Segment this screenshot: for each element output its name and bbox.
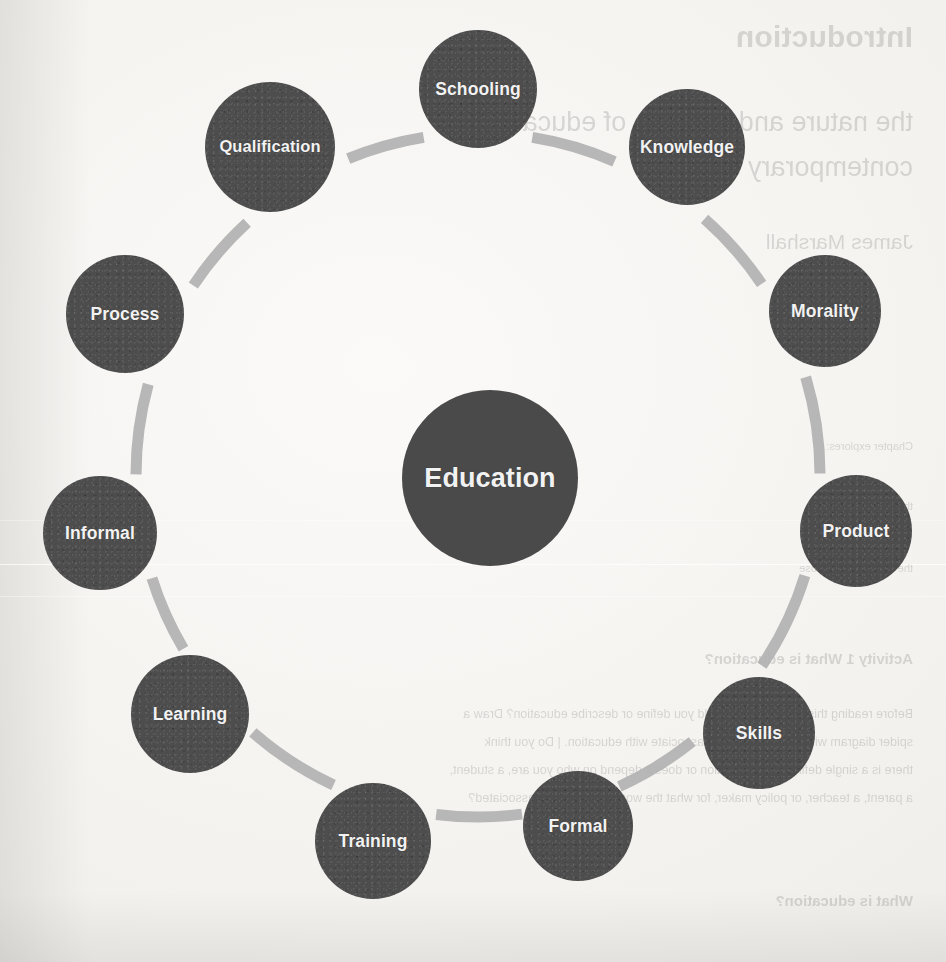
node-label: Education — [424, 464, 555, 492]
concept-node-training: Training — [315, 783, 431, 899]
education-concept-map: SchoolingKnowledgeMoralityProductSkillsF… — [0, 0, 946, 962]
ring-arc-segment — [253, 732, 334, 785]
node-label: Morality — [791, 302, 859, 320]
ring-arc-segment — [193, 223, 247, 286]
concept-node-morality: Morality — [769, 255, 881, 367]
node-label: Process — [91, 305, 160, 323]
concept-node-schooling: Schooling — [419, 30, 537, 148]
node-label: Training — [339, 832, 408, 850]
ring-arc-segment — [436, 814, 522, 817]
concept-node-product: Product — [800, 475, 912, 587]
node-label: Informal — [65, 524, 135, 542]
diagram-page: Introductionthe nature and purpose of ed… — [0, 0, 946, 962]
ring-arc-segment — [705, 219, 762, 284]
ring-arc-segment — [619, 742, 692, 787]
concept-node-qualification: Qualification — [205, 82, 335, 212]
node-label: Qualification — [219, 138, 320, 155]
node-label: Knowledge — [640, 138, 734, 156]
concept-node-skills: Skills — [703, 677, 815, 789]
ring-arc-segment — [152, 578, 184, 649]
concept-node-process: Process — [66, 255, 184, 373]
concept-node-formal: Formal — [523, 771, 633, 881]
ring-arc-segment — [136, 384, 148, 474]
concept-node-learning: Learning — [131, 655, 249, 773]
node-label: Formal — [549, 817, 608, 835]
concept-node-knowledge: Knowledge — [629, 89, 745, 205]
node-label: Skills — [736, 724, 782, 742]
center-node-education: Education — [402, 390, 578, 566]
ring-arc-segment — [806, 377, 820, 473]
node-label: Learning — [153, 705, 228, 723]
node-label: Product — [823, 522, 890, 540]
node-label: Schooling — [435, 80, 520, 98]
ring-arc-segment — [348, 137, 423, 158]
ring-arc-segment — [532, 137, 614, 161]
ring-arc-segment — [762, 576, 805, 666]
concept-node-informal: Informal — [43, 476, 157, 590]
